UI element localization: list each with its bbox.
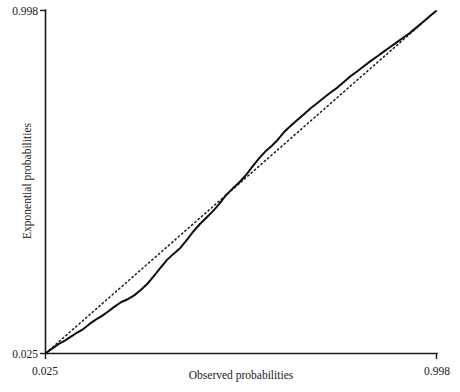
x-axis-right-tick-label: 0.998 <box>424 365 450 377</box>
y-axis-title: Exponential probabilities <box>21 123 34 239</box>
x-axis-title: Observed probabilities <box>189 369 294 382</box>
y-axis-bottom-tick-label: 0.025 <box>12 348 38 360</box>
y-axis-top-tick-label: 0.998 <box>12 5 38 17</box>
pp-plot-figure: 0.998 0.025 0.025 0.998 Observed probabi… <box>0 0 460 392</box>
x-axis-left-tick-label: 0.025 <box>32 365 58 377</box>
